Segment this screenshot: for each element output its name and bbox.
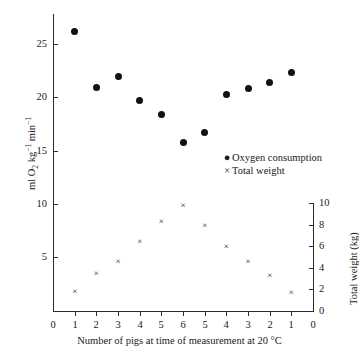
data-point-circle bbox=[266, 79, 273, 86]
data-point-circle bbox=[245, 85, 252, 92]
right-axis-title: Total weight (kg) bbox=[348, 232, 359, 305]
bottom-tick-label: 3 bbox=[106, 320, 130, 331]
bottom-tick-label: 6 bbox=[171, 320, 195, 331]
data-point-circle bbox=[71, 28, 78, 35]
data-point-circle bbox=[201, 129, 208, 136]
right-tick-label: 10 bbox=[319, 198, 341, 209]
data-point-cross: × bbox=[135, 237, 144, 246]
bottom-tick bbox=[248, 311, 249, 316]
data-point-cross: × bbox=[287, 288, 296, 297]
data-point-cross: × bbox=[114, 257, 123, 266]
x-axis-title: Number of pigs at time of measurement at… bbox=[0, 335, 359, 346]
right-tick bbox=[309, 225, 314, 226]
right-tick bbox=[309, 268, 314, 269]
right-tick-label: 0 bbox=[319, 306, 341, 317]
legend-item-oxygen-consumption: ● Oxygen consumption bbox=[222, 151, 322, 164]
bottom-tick bbox=[183, 311, 184, 316]
left-tick-label: 20 bbox=[17, 92, 47, 103]
bottom-tick-label: 4 bbox=[214, 320, 238, 331]
chart-figure: 510152025 0246810 0123456543210 ××××××××… bbox=[0, 0, 359, 353]
chart-legend: ● Oxygen consumption × Total weight bbox=[222, 151, 322, 177]
data-point-circle bbox=[115, 73, 122, 80]
bottom-tick-label: 2 bbox=[84, 320, 108, 331]
filled-circle-icon: ● bbox=[222, 151, 232, 164]
right-tick bbox=[309, 203, 314, 204]
legend-label: Total weight bbox=[232, 164, 285, 177]
bottom-tick bbox=[75, 311, 76, 316]
bottom-tick bbox=[161, 311, 162, 316]
data-point-cross: × bbox=[244, 257, 253, 266]
bottom-tick-label: 5 bbox=[149, 320, 173, 331]
legend-label: Oxygen consumption bbox=[232, 151, 322, 164]
left-tick-label: 10 bbox=[17, 199, 47, 210]
right-axis-line bbox=[313, 203, 314, 311]
left-tick bbox=[53, 151, 58, 152]
bottom-tick-label: 1 bbox=[279, 320, 303, 331]
bottom-tick bbox=[291, 311, 292, 316]
right-tick-label: 6 bbox=[319, 241, 341, 252]
data-point-cross: × bbox=[200, 221, 209, 230]
cross-icon: × bbox=[222, 164, 232, 177]
left-axis-title: ml O2 kg−1 min−1 bbox=[26, 117, 37, 190]
bottom-tick bbox=[96, 311, 97, 316]
data-point-cross: × bbox=[70, 287, 79, 296]
right-tick bbox=[309, 311, 314, 312]
data-point-cross: × bbox=[157, 217, 166, 226]
data-point-circle bbox=[223, 91, 230, 98]
legend-item-total-weight: × Total weight bbox=[222, 164, 322, 177]
left-tick bbox=[53, 204, 58, 205]
left-axis-line bbox=[53, 14, 54, 311]
left-tick-label: 25 bbox=[17, 39, 47, 50]
left-tick-label: 5 bbox=[17, 252, 47, 263]
bottom-tick bbox=[140, 311, 141, 316]
right-tick bbox=[309, 289, 314, 290]
data-point-cross: × bbox=[265, 271, 274, 280]
bottom-tick bbox=[270, 311, 271, 316]
bottom-tick bbox=[118, 311, 119, 316]
bottom-tick bbox=[226, 311, 227, 316]
right-tick-label: 8 bbox=[319, 220, 341, 231]
data-point-circle bbox=[136, 97, 143, 104]
right-tick-label: 4 bbox=[319, 263, 341, 274]
data-point-circle bbox=[180, 139, 187, 146]
data-point-cross: × bbox=[179, 201, 188, 210]
bottom-tick bbox=[205, 311, 206, 316]
bottom-tick-label: 0 bbox=[301, 320, 325, 331]
bottom-tick-label: 0 bbox=[41, 320, 65, 331]
left-tick bbox=[53, 97, 58, 98]
right-tick-label: 2 bbox=[319, 284, 341, 295]
data-point-circle bbox=[93, 84, 100, 91]
data-point-circle bbox=[288, 69, 295, 76]
left-tick bbox=[53, 257, 58, 258]
data-point-cross: × bbox=[92, 269, 101, 278]
data-point-cross: × bbox=[222, 242, 231, 251]
data-point-circle bbox=[158, 111, 165, 118]
bottom-tick-label: 3 bbox=[236, 320, 260, 331]
right-tick bbox=[309, 246, 314, 247]
left-tick bbox=[53, 44, 58, 45]
